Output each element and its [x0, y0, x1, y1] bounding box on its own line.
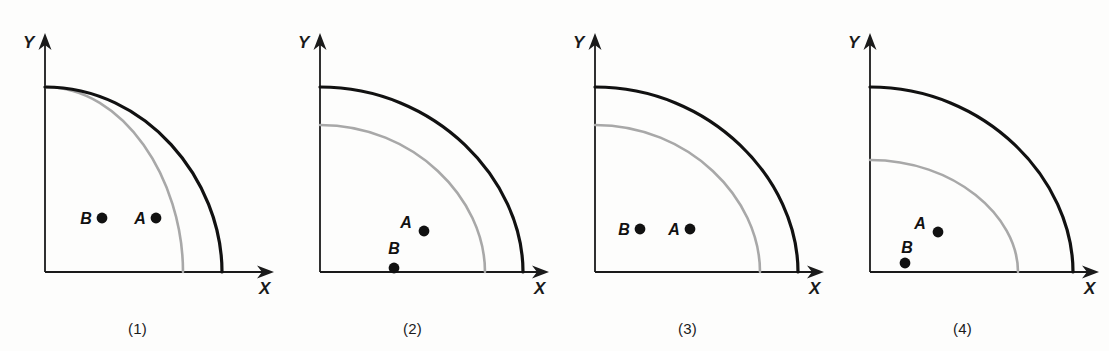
inner-curve	[45, 87, 183, 272]
y-axis-label: Y	[23, 33, 36, 52]
point-label-b: B	[388, 240, 400, 257]
y-axis-label: Y	[298, 33, 311, 52]
point-label-a: A	[399, 214, 412, 231]
data-point-a: A	[913, 215, 943, 237]
axes	[589, 33, 825, 279]
point-label-b: B	[901, 239, 913, 256]
y-axis-label: Y	[573, 33, 586, 52]
outer-curve	[320, 87, 523, 272]
point-marker-a	[419, 226, 430, 237]
outer-curve	[595, 87, 798, 272]
chart-panel-3: YXBA(3)	[550, 0, 825, 351]
data-point-b: B	[900, 239, 913, 268]
inner-curve	[870, 160, 1018, 272]
data-point-a: A	[667, 221, 695, 238]
axes	[314, 33, 550, 279]
point-marker-a	[933, 227, 944, 238]
data-point-b: B	[80, 210, 107, 227]
point-marker-b	[97, 213, 108, 224]
inner-curve	[595, 125, 760, 272]
point-label-b: B	[80, 210, 92, 227]
data-point-a: A	[133, 210, 161, 227]
point-label-a: A	[667, 221, 680, 238]
point-label-a: A	[133, 210, 146, 227]
data-point-b: B	[388, 240, 400, 273]
data-point-b: B	[618, 221, 645, 238]
panel-caption: (1)	[0, 320, 275, 337]
point-marker-b	[900, 258, 911, 269]
axes	[864, 33, 1100, 279]
x-axis-label: X	[258, 279, 272, 298]
axes	[39, 33, 275, 279]
point-marker-a	[685, 224, 696, 235]
chart-panel-2: YXAB(2)	[275, 0, 550, 351]
x-axis-label: X	[533, 279, 547, 298]
x-axis-label: X	[808, 279, 822, 298]
x-axis-label: X	[1083, 279, 1097, 298]
chart-panel-1: YXBA(1)	[0, 0, 275, 351]
panel-caption: (2)	[275, 320, 550, 337]
panel-caption: (4)	[825, 320, 1100, 337]
point-marker-b	[635, 224, 646, 235]
data-point-a: A	[399, 214, 429, 236]
point-label-a: A	[913, 215, 926, 232]
point-label-b: B	[618, 221, 630, 238]
outer-curve	[45, 87, 222, 272]
panel-caption: (3)	[550, 320, 825, 337]
inner-curve	[320, 125, 485, 272]
four-panel-curve-figure: YXBA(1)YXAB(2)YXBA(3)YXAB(4)	[0, 0, 1109, 351]
point-marker-a	[151, 213, 162, 224]
point-marker-b	[389, 263, 400, 274]
chart-panel-4: YXAB(4)	[825, 0, 1100, 351]
y-axis-label: Y	[848, 33, 861, 52]
